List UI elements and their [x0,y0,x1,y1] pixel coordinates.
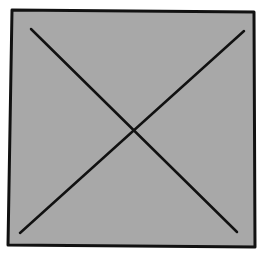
diagram-canvas [0,0,260,254]
square-with-x-diagram [0,0,260,254]
